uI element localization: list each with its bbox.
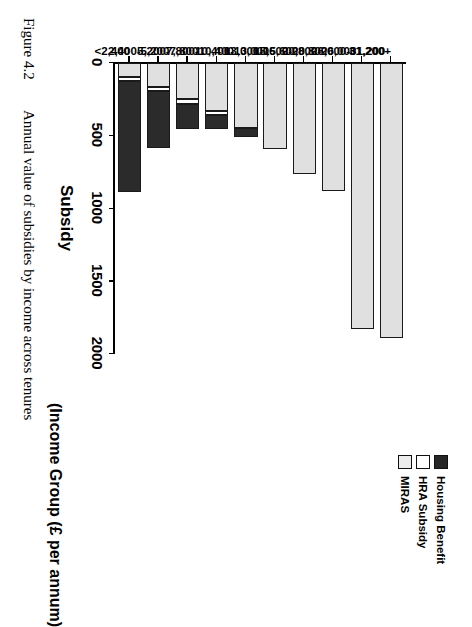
legend-swatch-hra xyxy=(417,455,431,469)
bar-segment-miras xyxy=(205,63,228,111)
bar-stack xyxy=(176,63,199,561)
bar-stack xyxy=(351,63,374,561)
plot-area xyxy=(115,62,406,560)
legend-swatch-miras xyxy=(399,455,413,469)
category-axis-label: 31,200+ xyxy=(340,45,391,57)
bar-segment-miras xyxy=(322,63,345,191)
bar-segment-hb xyxy=(176,104,199,129)
bar-segment-miras xyxy=(118,63,141,77)
chart-legend: Housing BenefitHRA SubsidyMIRAS xyxy=(396,455,450,564)
bar-segment-miras xyxy=(351,63,374,329)
bar-segment-hb xyxy=(147,91,170,148)
value-axis-tick-label: 0 xyxy=(89,58,106,66)
value-axis-tick-label: 2000 xyxy=(89,337,106,370)
value-axis-tick-label: 500 xyxy=(89,123,106,147)
category-axis-title: (Income Group (£ per annum) xyxy=(46,403,64,627)
value-axis-tick-label: 1000 xyxy=(89,191,106,224)
bar-stack xyxy=(147,63,170,561)
bar-stack xyxy=(205,63,228,561)
legend-swatch-hb xyxy=(435,455,449,469)
legend-label: HRA Subsidy xyxy=(418,476,430,548)
bar-segment-miras xyxy=(176,63,199,99)
legend-item: HRA Subsidy xyxy=(415,455,432,564)
bar-segment-miras xyxy=(293,63,316,174)
value-axis-tick-label: 1500 xyxy=(89,264,106,297)
bar-segment-miras xyxy=(147,63,170,87)
bar-stack xyxy=(118,63,141,561)
legend-item: Housing Benefit xyxy=(433,455,450,564)
legend-item: MIRAS xyxy=(397,455,414,564)
bar-segment-hb xyxy=(234,128,257,137)
figure-caption-text: Annual value of subsidies by income acro… xyxy=(21,110,37,420)
figure-number: Figure 4.2 xyxy=(21,18,37,80)
bar-stack xyxy=(263,63,286,561)
bar-segment-hb xyxy=(205,115,228,130)
bar-segment-miras xyxy=(234,63,257,128)
value-axis-title: Subsidy xyxy=(56,185,76,251)
bar-stack xyxy=(322,63,345,561)
legend-label: Housing Benefit xyxy=(436,476,448,564)
bar-stack xyxy=(293,63,316,561)
figure-caption: Figure 4.2 Annual value of subsidies by … xyxy=(20,18,38,420)
legend-label: MIRAS xyxy=(400,476,412,513)
bar-segment-miras xyxy=(263,63,286,149)
bar-segment-hb xyxy=(118,81,141,192)
bar-segment-miras xyxy=(380,63,403,338)
bar-stack xyxy=(234,63,257,561)
